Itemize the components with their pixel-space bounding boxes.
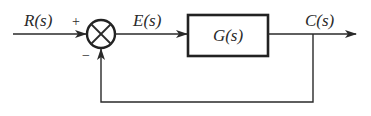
- plus-sign: +: [72, 14, 80, 29]
- minus-sign: −: [82, 48, 90, 63]
- block-diagram: R(s) + − E(s) G(s) C(s): [0, 0, 371, 116]
- summing-junction: [87, 20, 115, 48]
- output-label-c: C(s): [305, 11, 335, 30]
- input-label-r: R(s): [23, 11, 53, 30]
- error-label-e: E(s): [132, 11, 162, 30]
- block-label-g: G(s): [213, 26, 244, 45]
